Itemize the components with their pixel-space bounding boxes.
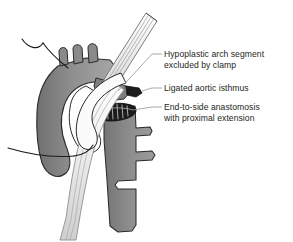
annotation-label-ligated-aortic-isthmus: Ligated aortic isthmus bbox=[164, 83, 249, 94]
arch-branch-vessel-1 bbox=[59, 48, 68, 66]
illustration-canvas: Hypoplastic arch segment excluded by cla… bbox=[0, 0, 293, 242]
arch-branch-vessel-2 bbox=[73, 45, 83, 64]
annotation-label-end-to-side-anastomosis: End-to-side anastomosis with proximal ex… bbox=[164, 102, 260, 123]
annotation-label-hypoplastic-arch-segment: Hypoplastic arch segment excluded by cla… bbox=[164, 49, 264, 70]
arch-branch-vessel-3 bbox=[88, 44, 98, 63]
